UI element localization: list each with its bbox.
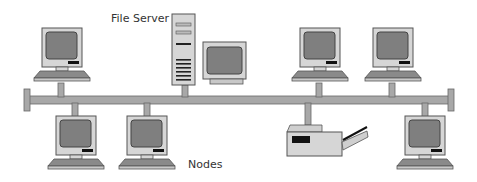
printer — [287, 125, 368, 156]
computer-node-bottom-3 — [397, 116, 453, 169]
nodes-label: Nodes — [188, 158, 223, 171]
computer-node-top-3 — [365, 28, 421, 81]
bus-terminator-left — [24, 89, 30, 111]
file-server-label: File Server — [111, 12, 169, 25]
computer-node-bottom-2 — [119, 116, 175, 169]
bus-network-diagram: File Server Nodes — [0, 0, 477, 182]
computer-node-bottom-1 — [48, 116, 104, 169]
computer-node-top-2 — [292, 28, 348, 81]
bus-terminator-right — [448, 89, 454, 111]
file-server — [172, 14, 246, 85]
computer-node-top-1 — [34, 28, 90, 81]
server-monitor — [203, 42, 246, 84]
